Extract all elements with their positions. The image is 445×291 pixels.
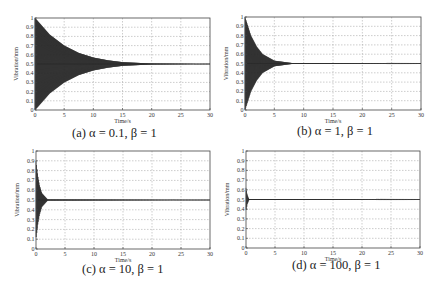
y-tick-label: 0.4	[237, 206, 245, 212]
x-tick-label: 30	[417, 250, 423, 256]
y-tick-label: 0.1	[237, 235, 245, 241]
x-tick-label: 5	[274, 250, 277, 256]
y-tick-label: 0.5	[237, 197, 245, 203]
x-tick-label: 20	[359, 250, 365, 256]
y-tick-label: 0.6	[237, 187, 245, 193]
plot-d: 05101520253000.10.20.30.40.50.60.70.80.9…	[0, 0, 445, 291]
x-tick-label: 25	[388, 250, 394, 256]
y-tick-label: 1	[242, 148, 245, 154]
caption-d: (d) α = 100, β = 1	[292, 258, 380, 273]
caption-d-params: α = 100, β = 1	[310, 258, 381, 272]
subplot-d: 05101520253000.10.20.30.40.50.60.70.80.9…	[0, 0, 445, 291]
y-tick-label: 0.7	[237, 177, 245, 183]
y-tick-label: 0.3	[237, 216, 245, 222]
y-tick-label: 0.9	[237, 158, 245, 164]
x-tick-label: 0	[245, 250, 248, 256]
caption-d-letter: (d)	[292, 258, 307, 272]
y-tick-label: 0.2	[237, 226, 245, 232]
y-tick-label: 0	[242, 245, 245, 251]
y-tick-label: 0.8	[237, 167, 245, 173]
y-axis-label: Vibration/mm	[224, 182, 230, 216]
x-tick-label: 10	[301, 250, 307, 256]
